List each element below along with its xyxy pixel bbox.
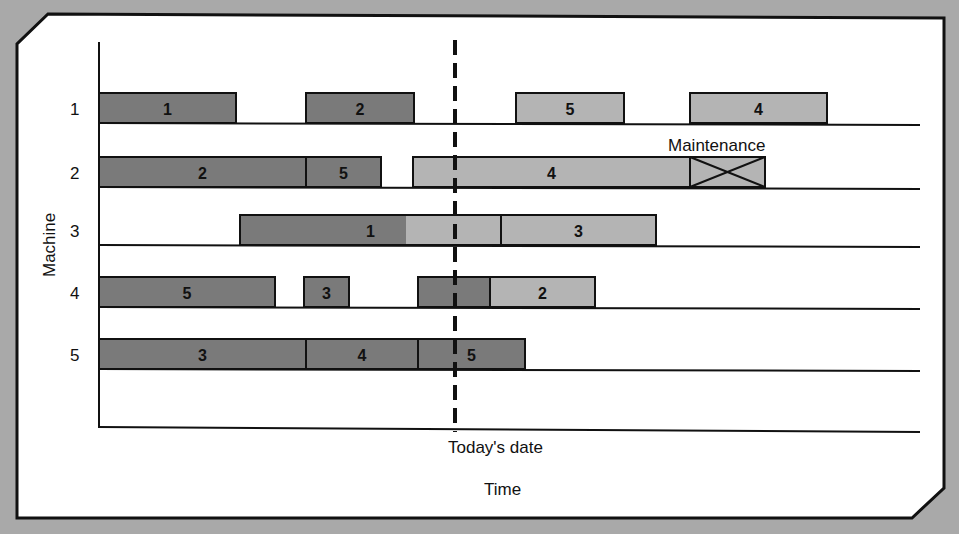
job-number: 4 — [754, 101, 763, 118]
job-number: 5 — [183, 285, 192, 302]
job-number: 5 — [467, 347, 476, 364]
machine-label: 3 — [70, 222, 79, 241]
job-number: 1 — [163, 101, 172, 118]
gantt-chart: 11254225431345325345 Today's date Time M… — [0, 0, 959, 534]
job-number: 3 — [574, 223, 583, 240]
machine-label: 2 — [70, 164, 79, 183]
machine-label: 4 — [70, 284, 79, 303]
job-number: 2 — [538, 285, 547, 302]
job-number: 1 — [366, 223, 375, 240]
job-number: 3 — [322, 285, 331, 302]
job-number: 2 — [356, 101, 365, 118]
job-number: 5 — [566, 101, 575, 118]
job-number: 3 — [198, 347, 207, 364]
machine-label: 1 — [70, 100, 79, 119]
y-axis-label: Machine — [40, 213, 59, 277]
job-number: 4 — [547, 165, 556, 182]
job-number: 5 — [339, 165, 348, 182]
today-label: Today's date — [448, 438, 543, 457]
x-axis-label: Time — [484, 480, 521, 499]
job-number: 2 — [198, 165, 207, 182]
job-number: 4 — [358, 347, 367, 364]
maintenance-label: Maintenance — [668, 136, 765, 155]
machine-label: 5 — [70, 346, 79, 365]
job-bar-completed — [240, 215, 406, 245]
